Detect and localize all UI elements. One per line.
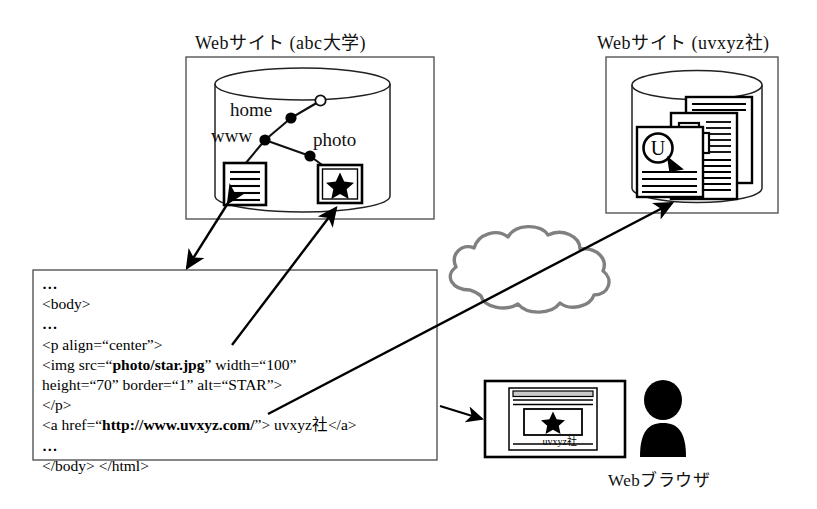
code-line: </body> </html> bbox=[42, 456, 432, 476]
code-text: </p> bbox=[42, 396, 72, 413]
code-text: … bbox=[42, 437, 60, 454]
tree-node-photo bbox=[304, 150, 315, 161]
code-text: … bbox=[42, 275, 60, 292]
code-line: height=“70” border=“1” alt=“STAR”> bbox=[42, 375, 432, 395]
left-site-title: Webサイト (abc大学) bbox=[195, 28, 366, 54]
code-line: … bbox=[42, 314, 432, 334]
logo-letter-u: U bbox=[651, 137, 666, 159]
code-text: <a href=“ bbox=[42, 416, 102, 433]
code-text: ”> uvxyz社</a> bbox=[255, 416, 357, 433]
code-text: <p align=“center”> bbox=[42, 336, 162, 353]
tree-node-leaf-open bbox=[315, 95, 325, 105]
code-emphasis: photo/star.jpg bbox=[112, 356, 204, 373]
code-line: … bbox=[42, 274, 432, 294]
code-text: height=“70” border=“1” alt=“STAR”> bbox=[42, 376, 282, 393]
arrow-code-to-browser bbox=[440, 406, 482, 419]
code-line: <a href=“http://www.uvxyz.com/”> uvxyz社<… bbox=[42, 415, 432, 435]
diagram-canvas: U bbox=[0, 0, 817, 509]
right-site-title: Webサイト (uvxyz社) bbox=[597, 28, 770, 54]
code-text: </body> </html> bbox=[42, 457, 149, 474]
browser-page-caption: uvxyz社 bbox=[505, 433, 577, 448]
text-document-icon bbox=[224, 163, 266, 205]
tree-label-www: www bbox=[211, 125, 252, 147]
code-text: <body> bbox=[42, 295, 90, 312]
code-text: <img src=“ bbox=[42, 356, 112, 373]
browser-label: Webブラウザ bbox=[608, 466, 710, 491]
person-silhouette-icon bbox=[640, 380, 686, 457]
star-image-icon bbox=[318, 165, 362, 203]
code-emphasis: http://www.uvxyz.com/ bbox=[102, 416, 254, 433]
tree-node-www bbox=[259, 134, 270, 145]
code-line: <p align=“center”> bbox=[42, 335, 432, 355]
internet-cloud-icon bbox=[450, 227, 609, 313]
code-line: … bbox=[42, 436, 432, 456]
tree-label-home: home bbox=[230, 99, 272, 121]
code-text: … bbox=[42, 315, 60, 332]
tree-node-home bbox=[285, 112, 296, 123]
html-source-code: …<body>…<p align=“center”><img src=“phot… bbox=[42, 274, 432, 476]
code-line: <body> bbox=[42, 294, 432, 314]
code-text: ” width=“100” bbox=[204, 356, 296, 373]
right-site-group: U bbox=[606, 57, 778, 213]
code-line: </p> bbox=[42, 395, 432, 415]
code-line: <img src=“photo/star.jpg” width=“100” bbox=[42, 355, 432, 375]
tree-label-photo: photo bbox=[313, 129, 356, 151]
